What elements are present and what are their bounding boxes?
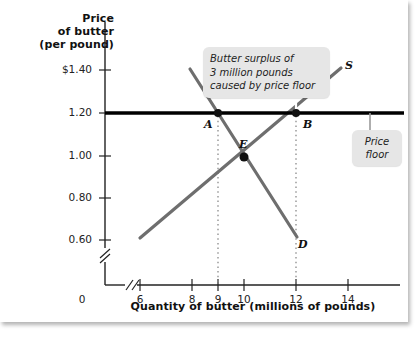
y-tick-label-080: 0.80 <box>40 191 92 203</box>
point-b-label: B <box>303 118 312 131</box>
surplus-annotation-line-2: 3 million pounds <box>210 66 323 80</box>
price-floor-annotation-line-1: Price <box>359 135 395 148</box>
point-a-marker <box>214 109 222 117</box>
x-tick-label-14: 14 <box>333 293 363 305</box>
point-a-label: A <box>204 118 213 131</box>
y-tick-label-100: 1.00 <box>40 149 92 161</box>
y-tick-label-120: 1.20 <box>40 106 92 118</box>
x-tick-label-10: 10 <box>229 293 259 305</box>
chart-figure: Price of butter (per pound) Quantity of … <box>0 0 419 337</box>
y-axis-title-line-1: Price <box>22 12 114 25</box>
surplus-annotation: Butter surplus of 3 million pounds cause… <box>203 47 330 98</box>
y-axis-break-icon-2 <box>100 254 110 263</box>
surplus-annotation-line-3: caused by price floor <box>210 79 323 93</box>
x-tick-label-6: 6 <box>125 293 155 305</box>
demand-curve-label: D <box>298 238 308 251</box>
point-e-label: E <box>239 138 247 151</box>
y-tick-label-140: $1.40 <box>40 63 92 75</box>
point-e-marker <box>240 153 249 162</box>
chart-panel: Price of butter (per pound) Quantity of … <box>0 0 408 322</box>
surplus-bracket <box>218 100 296 111</box>
surplus-annotation-line-1: Butter surplus of <box>210 52 323 66</box>
y-axis-title: Price of butter (per pound) <box>22 12 114 51</box>
y-axis-break-icon <box>100 249 110 258</box>
point-b-marker <box>292 109 300 117</box>
x-tick-label-0: 0 <box>67 293 97 305</box>
y-axis-title-line-2: of butter <box>22 25 114 38</box>
y-tick-label-060: 0.60 <box>40 233 92 245</box>
supply-curve-label: S <box>345 59 353 72</box>
x-axis-break-icon <box>126 280 133 290</box>
price-floor-annotation-line-2: floor <box>359 148 395 161</box>
x-tick-label-12: 12 <box>281 293 311 305</box>
price-floor-annotation: Price floor <box>352 130 402 166</box>
y-axis-title-line-3: (per pound) <box>22 38 114 51</box>
